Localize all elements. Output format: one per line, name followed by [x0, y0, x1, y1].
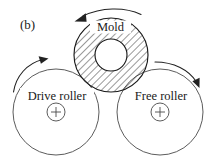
mold-label-group: Mold — [90, 20, 131, 34]
panel-label: (b) — [20, 17, 35, 32]
drive-roller-rotation-arrow — [14, 56, 49, 92]
mold: Mold — [70, 9, 152, 96]
free-roller-arrow-head — [192, 78, 199, 88]
free-roller-label: Free roller — [135, 89, 188, 103]
drive-roller-hub — [47, 103, 65, 121]
mold-label: Mold — [97, 20, 125, 34]
drive-roller-arrow-head — [39, 56, 49, 64]
drive-roller-label-group: Drive roller — [20, 88, 94, 103]
roller-mold-diagram: Mold Drive roller Free roller (b) — [0, 0, 215, 164]
drive-roller-arrow-arc — [14, 60, 43, 93]
figure-panel-b: Mold Drive roller Free roller (b) — [0, 0, 215, 164]
free-roller-hub — [151, 103, 169, 121]
drive-roller-label: Drive roller — [28, 89, 87, 103]
free-roller-label-group: Free roller — [129, 88, 195, 103]
